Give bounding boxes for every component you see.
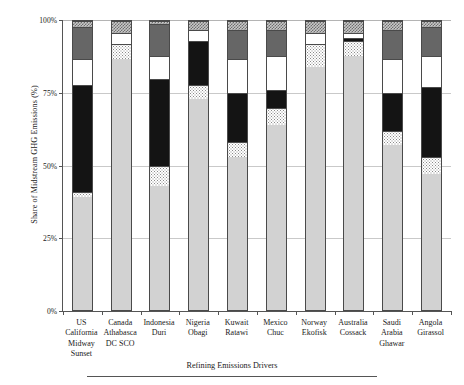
bar-segment-light-gray	[112, 59, 131, 310]
bar-segment-black	[383, 93, 402, 131]
x-tick-mark	[412, 311, 413, 315]
bar-segment-black	[228, 93, 247, 142]
stacked-bar[interactable]	[227, 20, 248, 311]
bar-segment-white	[344, 33, 363, 39]
bar-segment-light-gray	[383, 145, 402, 310]
bar-segment-checker	[422, 21, 441, 27]
bar-segment-black	[189, 41, 208, 84]
bar-segment-light-gray	[73, 197, 92, 310]
bar-segment-checker	[112, 21, 131, 33]
bar-slot	[412, 20, 451, 311]
bar-segment-checker	[150, 21, 169, 24]
figure-root: Share of Midstream GHG Emissions (%) 0%2…	[0, 0, 464, 385]
stacked-bar[interactable]	[72, 20, 93, 311]
y-tick-label: 25%	[43, 234, 57, 243]
bar-segment-dotted	[383, 131, 402, 145]
x-tick-mark	[63, 311, 64, 315]
caption-rule	[87, 376, 377, 377]
x-tick-mark	[451, 311, 452, 315]
stacked-bar[interactable]	[149, 20, 170, 311]
bar-segment-white	[306, 33, 325, 45]
bar-segment-white	[112, 33, 131, 45]
bar-segment-dotted	[267, 108, 286, 125]
figure-caption: Refining Emissions Drivers	[0, 361, 464, 370]
stacked-bar[interactable]	[305, 20, 326, 311]
bar-slot	[257, 20, 296, 311]
stacked-bar[interactable]	[111, 20, 132, 311]
bar-slot	[63, 20, 102, 311]
bars-group	[63, 20, 451, 311]
bar-segment-dark-gray	[150, 24, 169, 56]
x-axis-label-line: Sunset	[58, 349, 105, 359]
bar-segment-light-gray	[306, 67, 325, 310]
x-tick-mark	[335, 311, 336, 315]
x-tick-mark	[218, 311, 219, 315]
bar-segment-dotted	[150, 166, 169, 186]
bar-segment-dotted	[73, 192, 92, 198]
bar-segment-checker	[306, 21, 325, 33]
bar-slot	[296, 20, 335, 311]
x-axis-label-line: Ghawar	[368, 339, 415, 349]
bar-segment-checker	[73, 21, 92, 27]
x-tick-mark	[296, 311, 297, 315]
x-axis-label: AngolaGirassol	[407, 318, 454, 339]
stacked-bar[interactable]	[188, 20, 209, 311]
bar-segment-white	[150, 56, 169, 79]
bar-slot	[179, 20, 218, 311]
x-tick-mark	[141, 311, 142, 315]
bar-segment-light-gray	[267, 125, 286, 310]
bar-segment-light-gray	[228, 157, 247, 310]
bar-segment-dark-gray	[383, 30, 402, 59]
stacked-bar[interactable]	[421, 20, 442, 311]
bar-segment-dotted	[112, 44, 131, 58]
stacked-bar[interactable]	[343, 20, 364, 311]
bar-segment-white	[189, 30, 208, 42]
bar-segment-dark-gray	[422, 27, 441, 56]
bar-slot	[218, 20, 257, 311]
bar-segment-dotted	[228, 142, 247, 156]
x-tick-mark	[102, 311, 103, 315]
bar-segment-checker	[189, 21, 208, 30]
bar-segment-dotted	[344, 41, 363, 55]
x-tick-mark	[257, 311, 258, 315]
bar-segment-light-gray	[150, 186, 169, 310]
stacked-bar[interactable]	[266, 20, 287, 311]
bar-segment-light-gray	[189, 99, 208, 310]
bar-segment-white	[267, 56, 286, 91]
bar-segment-black	[344, 38, 363, 41]
bar-slot	[102, 20, 141, 311]
bar-segment-dark-gray	[267, 30, 286, 56]
x-tick-mark	[179, 311, 180, 315]
bar-segment-light-gray	[344, 56, 363, 310]
bar-segment-white	[422, 56, 441, 88]
bar-segment-checker	[267, 21, 286, 30]
bar-segment-white	[228, 59, 247, 94]
bar-segment-dark-gray	[228, 30, 247, 59]
bar-segment-dotted	[189, 85, 208, 99]
bar-segment-light-gray	[422, 174, 441, 310]
bar-segment-checker	[344, 21, 363, 33]
bar-segment-black	[267, 90, 286, 107]
bar-segment-checker	[228, 21, 247, 30]
bar-segment-black	[422, 87, 441, 156]
bar-slot	[335, 20, 374, 311]
y-tick-label: 0%	[47, 307, 57, 316]
bar-segment-dotted	[422, 157, 441, 174]
bar-segment-white	[73, 59, 92, 85]
y-tick-label: 75%	[43, 88, 57, 97]
bar-segment-black	[150, 79, 169, 166]
bar-segment-black	[73, 85, 92, 192]
y-tick-label: 100%	[39, 16, 57, 25]
x-axis-label-line: DC SCO	[97, 339, 144, 349]
bar-slot	[373, 20, 412, 311]
x-axis-label-line: Girassol	[407, 328, 454, 338]
bar-segment-dotted	[306, 44, 325, 67]
y-tick-label: 50%	[43, 161, 57, 170]
y-axis-title: Share of Midstream GHG Emissions (%)	[30, 45, 39, 265]
stacked-bar[interactable]	[382, 20, 403, 311]
bar-segment-dark-gray	[73, 27, 92, 59]
plot-area: 0%25%50%75%100%	[62, 20, 451, 312]
bar-segment-white	[383, 59, 402, 94]
bar-slot	[141, 20, 180, 311]
bar-segment-checker	[383, 21, 402, 30]
